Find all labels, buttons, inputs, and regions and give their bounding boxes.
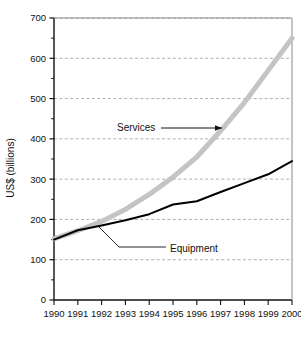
y-axis-tick-label: 0 bbox=[41, 294, 46, 305]
x-axis-tick-label: 1996 bbox=[186, 308, 207, 319]
y-axis-tick-label: 400 bbox=[30, 133, 46, 144]
annotation-equipment-label: Equipment bbox=[170, 243, 218, 254]
y-axis-tick-label: 200 bbox=[30, 214, 46, 225]
x-axis-tick-label: 1994 bbox=[139, 308, 160, 319]
x-axis-tick-label: 1992 bbox=[91, 308, 112, 319]
y-axis-tick-label: 600 bbox=[30, 53, 46, 64]
y-axis-tick-label: 300 bbox=[30, 174, 46, 185]
y-axis-title: US$ (billions) bbox=[5, 138, 16, 197]
x-axis-tick-label: 1990 bbox=[43, 308, 64, 319]
x-axis-tick-labels: 1990199119921993199419951996199719981999… bbox=[43, 308, 301, 319]
y-axis-tick-label: 100 bbox=[30, 254, 46, 265]
x-axis-tick-label: 1991 bbox=[67, 308, 88, 319]
line-chart: 0100200300400500600700 19901991199219931… bbox=[0, 0, 301, 337]
y-axis-tick-label: 500 bbox=[30, 93, 46, 104]
annotation-services-label: Services bbox=[117, 122, 155, 133]
chart-background bbox=[0, 0, 301, 337]
x-axis-tick-label: 1995 bbox=[162, 308, 183, 319]
x-axis-tick-label: 1998 bbox=[234, 308, 255, 319]
chart-container: 0100200300400500600700 19901991199219931… bbox=[0, 0, 301, 337]
x-axis-tick-label: 1993 bbox=[115, 308, 136, 319]
x-axis-tick-label: 1997 bbox=[210, 308, 231, 319]
x-axis-tick-label: 2000 bbox=[281, 308, 301, 319]
x-axis-tick-label: 1999 bbox=[258, 308, 279, 319]
y-axis-tick-label: 700 bbox=[30, 12, 46, 23]
